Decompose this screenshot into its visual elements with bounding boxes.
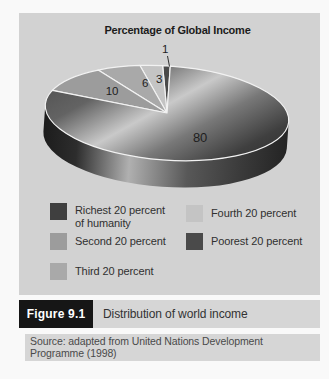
- legend-label: Richest 20 percent of humanity: [75, 203, 175, 229]
- legend-swatch-richest: [50, 203, 67, 220]
- legend-label: Third 20 percent: [75, 263, 154, 280]
- chart-title: Percentage of Global Income: [35, 24, 320, 36]
- figure-caption-bar: Figure 9.1 Distribution of world income: [19, 300, 320, 328]
- legend-item-poorest: Poorest 20 percent: [186, 233, 302, 250]
- figure: Percentage of Global Income: [0, 0, 329, 379]
- slice-value-label-poorest: 1: [162, 43, 168, 55]
- slice-value-label-richest: 80: [193, 130, 207, 145]
- legend-swatch-poorest: [186, 233, 203, 250]
- legend-item-third: Third 20 percent: [50, 263, 154, 280]
- legend-swatch-third: [50, 263, 67, 280]
- pie-chart: [19, 13, 320, 213]
- legend-label: Fourth 20 percent: [211, 205, 296, 222]
- legend-label: Second 20 percent: [75, 233, 166, 250]
- legend-item-second: Second 20 percent: [50, 233, 166, 250]
- pie-slices-group: [40, 58, 292, 196]
- legend-item-richest: Richest 20 percent of humanity: [50, 203, 175, 229]
- slice-value-label-fourth: 3: [156, 73, 162, 85]
- legend-swatch-second: [50, 233, 67, 250]
- label-leader-line: [168, 56, 170, 67]
- legend-item-fourth: Fourth 20 percent: [186, 205, 296, 222]
- legend-swatch-fourth: [186, 205, 203, 222]
- slice-value-label-third: 6: [142, 77, 148, 89]
- pie-slice: [42, 58, 292, 169]
- source-note: Source: adapted from United Nations Deve…: [25, 334, 320, 361]
- figure-caption-title: Distribution of world income: [103, 300, 248, 328]
- slice-value-label-second: 10: [106, 85, 118, 97]
- figure-number-badge: Figure 9.1: [19, 300, 93, 328]
- source-text: Source: adapted from United Nations Deve…: [25, 334, 292, 359]
- pie-side-wall: [40, 104, 289, 195]
- chart-panel: Percentage of Global Income: [19, 13, 320, 295]
- legend-label: Poorest 20 percent: [211, 233, 302, 250]
